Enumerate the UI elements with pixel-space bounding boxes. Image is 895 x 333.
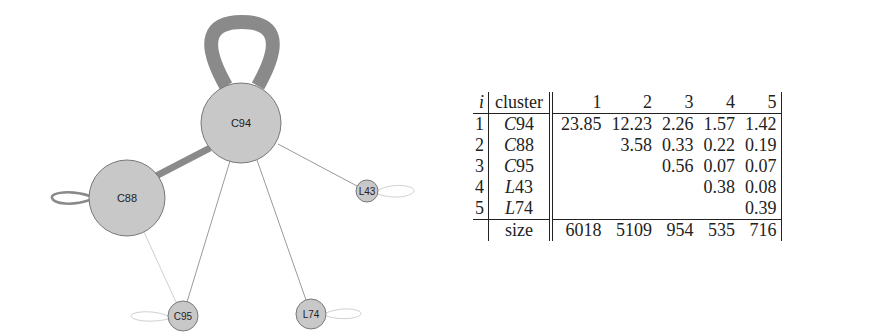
cluster-graph: C94 C88 L43 C95 L74 [0,0,460,333]
row-cluster: C88 [489,135,551,156]
cell: 0.38 [698,177,740,198]
edge-c95-self-loop [131,312,168,321]
edge-c94-l43 [278,144,357,186]
row-index: 2 [473,135,489,156]
table-row: 2 C88 3.58 0.33 0.22 0.19 [473,135,782,156]
header-cluster: cluster [489,92,551,114]
cell: 0.08 [740,177,782,198]
header-col: 2 [606,92,657,114]
size-cell: 716 [740,220,782,242]
size-cell: 535 [698,220,740,242]
cluster-weight-table: i cluster 1 2 3 4 5 1 C94 23.85 12.23 2.… [473,92,782,241]
table-row: 3 C95 0.56 0.07 0.07 [473,156,782,177]
node-l74: L74 [296,299,326,329]
cell: 0.22 [698,135,740,156]
table-row: 4 L43 0.38 0.08 [473,177,782,198]
size-label: size [489,220,551,242]
cell [606,177,657,198]
cell: 3.58 [606,135,657,156]
cell [551,135,607,156]
edge-l74-self-loop [326,309,361,319]
row-cluster: C94 [489,114,551,136]
cell [657,177,699,198]
cell [551,177,607,198]
cell: 23.85 [551,114,607,136]
size-cell: 954 [657,220,699,242]
header-col: 1 [551,92,607,114]
header-i: i [473,92,489,114]
cell: 0.33 [657,135,699,156]
cell: 1.42 [740,114,782,136]
edge-c94-c88 [156,148,210,176]
cell [606,198,657,220]
cell: 0.07 [740,156,782,177]
header-col: 4 [698,92,740,114]
cell [606,156,657,177]
node-l43: L43 [356,180,378,202]
row-index: 5 [473,198,489,220]
cell [551,198,607,220]
cell [551,156,607,177]
cell [657,198,699,220]
svg-text:C88: C88 [117,192,137,204]
cell: 12.23 [606,114,657,136]
node-c94: C94 [201,83,281,163]
cell: 2.26 [657,114,699,136]
row-cluster: C95 [489,156,551,177]
cell: 0.39 [740,198,782,220]
svg-text:L43: L43 [359,186,376,197]
edge-c94-self-loop [211,22,273,86]
table-row: 5 L74 0.39 [473,198,782,220]
table-header-row: i cluster 1 2 3 4 5 [473,92,782,114]
row-index [473,220,489,242]
cell: 0.07 [698,156,740,177]
row-index: 3 [473,156,489,177]
table-row: 1 C94 23.85 12.23 2.26 1.57 1.42 [473,114,782,136]
node-c88: C88 [89,160,165,236]
edge-l43-self-loop [378,185,414,197]
svg-text:L74: L74 [303,309,320,320]
size-cell: 6018 [551,220,607,242]
svg-text:C94: C94 [231,117,251,129]
cell: 0.56 [657,156,699,177]
cell: 1.57 [698,114,740,136]
size-cell: 5109 [606,220,657,242]
row-cluster: L74 [489,198,551,220]
cell: 0.19 [740,135,782,156]
header-col: 5 [740,92,782,114]
svg-text:C95: C95 [174,311,193,322]
edge-c94-c95 [187,161,230,302]
row-index: 4 [473,177,489,198]
cell [698,198,740,220]
edge-c88-c95 [144,232,176,302]
row-cluster: L43 [489,177,551,198]
row-index: 1 [473,114,489,136]
edge-c88-self-loop [52,192,90,203]
header-col: 3 [657,92,699,114]
table-size-row: size 6018 5109 954 535 716 [473,220,782,242]
node-c95: C95 [168,301,198,331]
edge-c94-l74 [257,160,306,300]
